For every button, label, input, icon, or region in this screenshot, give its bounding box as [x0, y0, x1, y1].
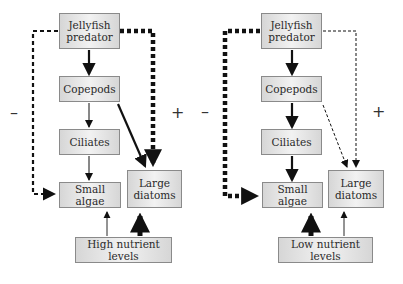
- node-high-nutrient-levels: High nutrient levels: [75, 237, 172, 263]
- node-small-algae: Small algae: [59, 182, 121, 208]
- plus-sign: +: [171, 105, 184, 121]
- node-large-diatoms: Large diatoms: [127, 170, 182, 208]
- node-low-nutrient-levels: Low nutrient levels: [278, 237, 373, 263]
- food-web-diagrams: Jellyfish predator Copepods Ciliates Sma…: [0, 0, 403, 284]
- plus-sign: +: [372, 104, 385, 120]
- node-copepods: Copepods: [59, 76, 120, 102]
- minus-sign: –: [201, 104, 209, 120]
- node-large-diatoms: Large diatoms: [328, 170, 384, 208]
- node-jellyfish-predator: Jellyfish predator: [59, 13, 120, 49]
- node-ciliates: Ciliates: [59, 129, 120, 155]
- node-ciliates: Ciliates: [261, 129, 322, 155]
- node-copepods: Copepods: [261, 76, 322, 102]
- node-small-algae: Small algae: [262, 182, 323, 208]
- node-jellyfish-predator: Jellyfish predator: [261, 13, 322, 49]
- minus-sign: –: [10, 105, 18, 121]
